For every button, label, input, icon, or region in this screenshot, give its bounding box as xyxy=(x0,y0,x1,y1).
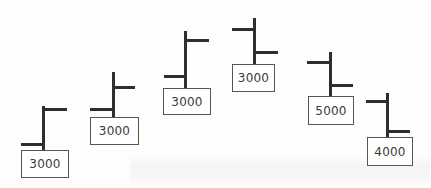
right-tick xyxy=(330,84,353,87)
stem-line xyxy=(253,18,256,64)
value-box: 5000 xyxy=(308,96,354,125)
value-box: 3000 xyxy=(232,64,275,92)
value-box: 3000 xyxy=(163,88,211,115)
value-box: 3000 xyxy=(21,150,69,178)
right-tick xyxy=(387,130,410,133)
value-box: 3000 xyxy=(90,117,139,145)
left-tick xyxy=(21,143,44,146)
value-box: 4000 xyxy=(367,137,413,166)
left-tick xyxy=(366,100,388,103)
left-tick xyxy=(232,28,255,31)
stem-line xyxy=(329,52,332,96)
left-tick xyxy=(164,75,186,78)
right-tick xyxy=(254,51,278,54)
diagram-canvas: 3000 3000 3000 3000 5000 4000 xyxy=(0,0,431,188)
right-tick xyxy=(113,86,135,89)
right-tick xyxy=(43,108,67,111)
right-tick xyxy=(185,39,209,42)
left-tick xyxy=(90,108,114,111)
left-tick xyxy=(307,61,331,64)
